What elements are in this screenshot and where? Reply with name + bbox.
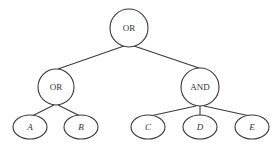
edge-root-and	[134, 46, 199, 68]
leaf-label: A	[26, 122, 33, 132]
edge-or-b	[58, 105, 80, 116]
leaf-label: B	[78, 122, 84, 132]
leaf-e: E	[235, 115, 269, 139]
leaf-label: C	[145, 122, 152, 132]
logic-tree-diagram: OR OR AND A B C D E	[0, 0, 280, 161]
node-or: OR	[38, 69, 74, 105]
node-label: AND	[190, 82, 210, 92]
leaf-label: D	[196, 122, 204, 132]
edge-root-or	[58, 46, 124, 69]
edge-or-a	[32, 105, 54, 116]
leaf-c: C	[131, 115, 165, 139]
node-label: OR	[123, 23, 136, 33]
leaf-b: B	[64, 115, 98, 139]
leaf-d: D	[183, 115, 217, 139]
edge-and-c	[150, 106, 196, 116]
node-and: AND	[181, 68, 219, 106]
node-label: OR	[50, 82, 63, 92]
edge-and-e	[204, 106, 250, 116]
node-root-or: OR	[110, 9, 148, 47]
leaf-label: E	[248, 122, 255, 132]
leaf-a: A	[13, 115, 47, 139]
